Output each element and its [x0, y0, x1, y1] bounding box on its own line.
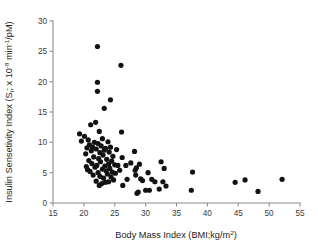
data-point: [86, 137, 91, 142]
x-axis-title: Body Mass Index (BMI;kg/m2): [115, 229, 236, 240]
data-point: [77, 131, 82, 136]
x-tick-label: 25: [110, 209, 120, 218]
data-point: [119, 129, 124, 134]
data-point: [115, 163, 120, 168]
y-tick-label: 30: [38, 17, 48, 26]
data-point: [255, 189, 260, 194]
data-point: [82, 134, 87, 139]
data-point: [137, 162, 142, 167]
data-point: [125, 177, 130, 182]
data-point: [103, 146, 108, 151]
data-point: [94, 146, 99, 151]
data-point: [106, 179, 111, 184]
data-point: [83, 151, 88, 156]
data-point: [91, 172, 96, 177]
data-point: [128, 160, 133, 165]
y-tick-label: 5: [42, 169, 47, 178]
data-point: [91, 154, 96, 159]
x-tick-label: 35: [172, 209, 182, 218]
data-point: [120, 155, 125, 160]
scatter-points: [77, 44, 285, 196]
y-tick-label: 0: [42, 199, 47, 208]
data-point: [88, 122, 93, 127]
data-point: [117, 168, 122, 173]
data-point: [104, 157, 109, 162]
data-point: [107, 149, 112, 154]
x-tick-label: 15: [48, 209, 58, 218]
data-point: [108, 97, 113, 102]
data-point: [79, 139, 84, 144]
data-point: [242, 177, 247, 182]
data-point: [190, 169, 195, 174]
data-point: [95, 44, 100, 49]
x-tick-label: 50: [265, 209, 275, 218]
data-point: [158, 159, 163, 164]
data-point: [113, 171, 118, 176]
data-point: [114, 147, 119, 152]
data-point: [162, 166, 167, 171]
data-point: [105, 139, 110, 144]
data-point: [100, 136, 105, 141]
y-tick-label: 10: [38, 138, 48, 147]
data-point: [93, 120, 98, 125]
data-point: [163, 183, 168, 188]
axis-lines: [53, 21, 300, 203]
data-point: [110, 154, 115, 159]
data-point: [160, 179, 165, 184]
scatter-plot-figure: 152025303540455055 051015202530 Body Mas…: [0, 0, 318, 244]
data-point: [97, 129, 102, 134]
data-point: [94, 163, 99, 168]
data-point: [133, 172, 138, 177]
data-point: [233, 180, 238, 185]
data-point: [111, 177, 116, 182]
data-point: [94, 179, 99, 184]
x-tick-label: 40: [203, 209, 213, 218]
chart-canvas: 152025303540455055 051015202530 Body Mas…: [0, 0, 318, 244]
data-point: [152, 179, 157, 184]
data-point: [145, 170, 150, 175]
data-point: [123, 163, 128, 168]
data-point: [189, 188, 194, 193]
data-point: [120, 183, 125, 188]
axis-line-path: [53, 21, 300, 203]
x-tick-label: 55: [295, 209, 305, 218]
y-tick-label: 20: [38, 78, 48, 87]
x-tick-label: 30: [141, 209, 151, 218]
data-point: [95, 80, 100, 85]
data-point: [136, 189, 141, 194]
y-axis-title: Insulin Sensetivity Index (SI; x 10-8 mi…: [3, 21, 16, 202]
data-point: [147, 188, 152, 193]
x-tick-label: 45: [234, 209, 244, 218]
y-axis-tick-labels: 051015202530: [38, 17, 48, 208]
y-tick-label: 15: [38, 108, 48, 117]
x-axis-tick-labels: 152025303540455055: [48, 209, 305, 218]
data-point: [118, 63, 123, 68]
data-point: [102, 106, 107, 111]
data-point: [95, 89, 100, 94]
data-point: [98, 159, 103, 164]
data-point: [157, 186, 162, 191]
data-point: [279, 177, 284, 182]
data-point: [100, 152, 105, 157]
data-point: [108, 145, 113, 150]
data-point: [140, 178, 145, 183]
x-tick-label: 20: [79, 209, 89, 218]
data-point: [132, 149, 137, 154]
y-tick-label: 25: [38, 47, 48, 56]
